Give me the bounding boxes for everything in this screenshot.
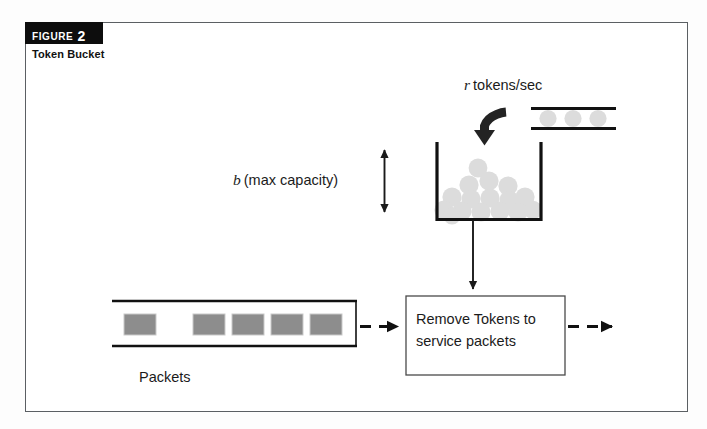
packet-queue-label: Packets — [139, 369, 191, 385]
bucket — [434, 142, 542, 225]
token-rate-label: rtokens/sec — [464, 76, 542, 94]
curved-inflow-arrow — [474, 112, 506, 146]
figure-canvas: FIGURE2 Token Bucket rtokens/sec b(max c… — [0, 0, 707, 429]
feed-token — [589, 110, 606, 127]
service-box-label: Remove Tokens to service packets — [416, 308, 561, 352]
token-feed-pipe — [531, 109, 616, 129]
queued-packet — [271, 314, 303, 335]
queued-packet — [193, 314, 225, 335]
inflow-arrow-shaft — [485, 112, 507, 131]
inflow-arrow-head — [474, 130, 495, 146]
token-bucket-diagram — [0, 0, 707, 429]
queued-packet — [124, 314, 156, 335]
bucket-token — [490, 201, 509, 220]
rate-variable: r — [464, 76, 473, 93]
service-box-line-1: Remove Tokens to — [416, 308, 561, 330]
feed-token — [564, 110, 581, 127]
figure-subtitle: Token Bucket — [32, 48, 105, 60]
service-box-line-2: service packets — [416, 330, 561, 352]
rate-unit-text: tokens/sec — [473, 77, 542, 93]
packet-queue — [112, 300, 357, 347]
queued-packet — [310, 314, 342, 335]
capacity-variable: b — [233, 171, 244, 188]
bucket-token — [479, 171, 498, 190]
figure-badge-word: FIGURE — [32, 31, 73, 42]
capacity-label: b(max capacity) — [233, 171, 338, 189]
queued-packet — [232, 314, 264, 335]
figure-badge-number: 2 — [77, 28, 85, 44]
feed-token — [539, 110, 556, 127]
capacity-text: (max capacity) — [244, 172, 338, 188]
bucket-token — [443, 207, 460, 224]
bucket-tokens — [434, 159, 542, 225]
figure-badge: FIGURE2 — [25, 22, 103, 44]
